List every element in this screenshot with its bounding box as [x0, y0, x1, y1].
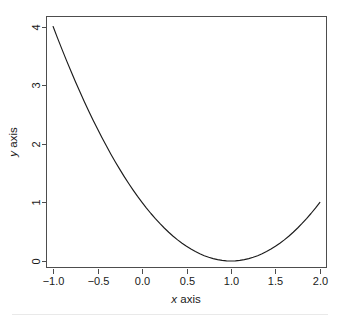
x-tick-label: 0.0 [135, 275, 150, 287]
y-axis-tick-labels: 01234 [30, 24, 42, 264]
x-tick-label: 1.0 [224, 275, 239, 287]
plot-svg: −1.0−0.50.00.51.01.52.0 01234 x axis y a… [0, 0, 340, 322]
figure-canvas: −1.0−0.50.00.51.01.52.0 01234 x axis y a… [0, 0, 340, 322]
x-axis-ticks [54, 269, 321, 274]
x-tick-label: −0.5 [88, 275, 110, 287]
y-axis-title: y axis [7, 127, 19, 158]
plot-frame [47, 17, 327, 268]
y-tick-label: 3 [30, 82, 42, 88]
x-tick-label: 0.5 [180, 275, 195, 287]
x-tick-label: 1.5 [268, 275, 283, 287]
y-tick-label: 1 [30, 199, 42, 205]
x-tick-label: 2.0 [313, 275, 328, 287]
y-tick-label: 2 [30, 141, 42, 147]
y-tick-label: 4 [30, 24, 42, 30]
parabola-curve [53, 27, 320, 261]
y-axis-ticks [42, 28, 47, 262]
y-tick-label: 0 [30, 258, 42, 264]
x-tick-label: −1.0 [43, 275, 65, 287]
x-axis-tick-labels: −1.0−0.50.00.51.01.52.0 [43, 275, 329, 287]
x-axis-title: x axis [170, 293, 201, 305]
data-series-group [53, 27, 320, 261]
